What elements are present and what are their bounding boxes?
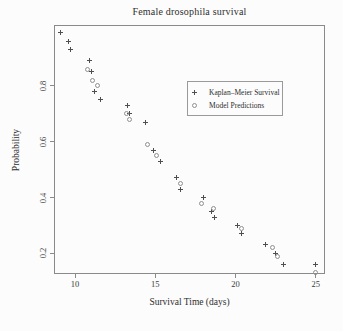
chart-title: Female drosophila survival [54, 6, 325, 17]
plot-area [54, 25, 325, 274]
x-axis-tick-label: 10 [63, 279, 87, 289]
y-axis-tick-label: 0.4 [35, 186, 51, 210]
km-survival-point [174, 175, 179, 180]
model-prediction-point [211, 206, 216, 211]
model-prediction-point [145, 142, 150, 147]
y-axis-tick-label: 0.2 [35, 241, 51, 265]
km-survival-point [92, 89, 97, 94]
plus-marker-icon [191, 90, 197, 96]
legend-item: Model Predictions [188, 99, 282, 112]
km-survival-point [87, 58, 92, 63]
plus-marker-icon [192, 90, 197, 95]
km-survival-point [158, 159, 163, 164]
circle-marker-icon [191, 103, 197, 109]
y-axis-tick-label: 0.8 [35, 74, 51, 98]
km-survival-point [151, 148, 156, 153]
x-axis-label: Survival Time (days) [54, 297, 325, 307]
x-axis-tick [155, 274, 156, 278]
survival-chart-figure: Female drosophila survival 101520250.20.… [0, 0, 343, 331]
legend-item: Kaplan–Meier Survival [188, 86, 282, 99]
km-survival-point [239, 231, 244, 236]
model-prediction-point [313, 270, 318, 275]
legend-item-label: Model Predictions [209, 101, 264, 110]
km-survival-point [68, 47, 73, 52]
km-survival-point [263, 242, 268, 247]
km-survival-point [66, 39, 71, 44]
km-survival-point [98, 97, 103, 102]
x-axis-tick [235, 274, 236, 278]
model-prediction-point [85, 67, 90, 72]
x-axis-tick-label: 20 [223, 279, 247, 289]
x-axis-tick [75, 274, 76, 278]
km-survival-point [58, 30, 63, 35]
km-survival-point [212, 215, 217, 220]
km-survival-point [281, 262, 286, 267]
model-prediction-point [275, 254, 280, 259]
legend: Kaplan–Meier SurvivalModel Predictions [187, 81, 283, 116]
model-prediction-point [199, 201, 204, 206]
km-survival-point [143, 120, 148, 125]
model-prediction-point [127, 117, 132, 122]
legend-item-label: Kaplan–Meier Survival [209, 88, 280, 97]
x-axis-tick-label: 25 [304, 279, 328, 289]
y-axis-label: Probability [8, 110, 24, 190]
km-survival-point [178, 187, 183, 192]
km-survival-point [125, 103, 130, 108]
y-axis-tick-label: 0.6 [35, 130, 51, 154]
km-survival-point [201, 195, 206, 200]
km-survival-point [313, 262, 318, 267]
x-axis-tick-label: 15 [143, 279, 167, 289]
model-prediction-point [90, 78, 95, 83]
circle-marker-icon [192, 103, 197, 108]
